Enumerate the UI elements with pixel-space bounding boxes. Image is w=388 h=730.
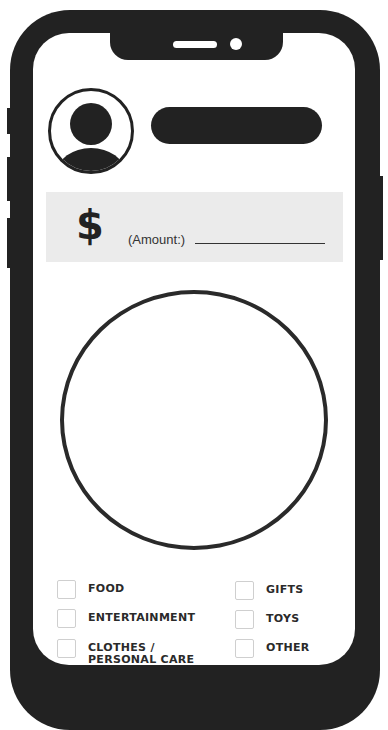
category-other[interactable]: OTHER: [235, 639, 346, 658]
category-toys[interactable]: TOYS: [235, 610, 346, 629]
checkbox[interactable]: [235, 581, 254, 600]
avatar-body: [57, 148, 125, 174]
category-label: TOYS: [266, 613, 346, 625]
category-label: ENTERTAINMENT: [88, 612, 238, 624]
amount-input[interactable]: [195, 243, 325, 244]
category-gifts[interactable]: GIFTS: [235, 581, 346, 600]
checkbox[interactable]: [57, 609, 76, 628]
name-field[interactable]: [151, 107, 322, 144]
category-label: CLOTHES / PERSONAL CARE: [88, 642, 213, 666]
category-label: FOOD: [88, 583, 238, 595]
category-food[interactable]: FOOD: [57, 580, 238, 599]
camera-icon: [230, 38, 242, 50]
category-entertainment[interactable]: ENTERTAINMENT: [57, 609, 238, 628]
category-label: OTHER: [266, 642, 346, 654]
category-label: GIFTS: [266, 584, 346, 596]
checkbox[interactable]: [57, 639, 76, 658]
amount-label: (Amount:): [128, 232, 185, 247]
dollar-icon: $: [76, 202, 104, 248]
pie-chart-placeholder: [60, 290, 328, 550]
speaker-icon: [173, 41, 217, 48]
checkbox[interactable]: [235, 639, 254, 658]
category-clothes-personal-care[interactable]: CLOTHES / PERSONAL CARE: [57, 639, 213, 666]
checkbox[interactable]: [235, 610, 254, 629]
checkbox[interactable]: [57, 580, 76, 599]
user-avatar-icon[interactable]: [48, 88, 134, 174]
avatar-head: [70, 103, 112, 145]
